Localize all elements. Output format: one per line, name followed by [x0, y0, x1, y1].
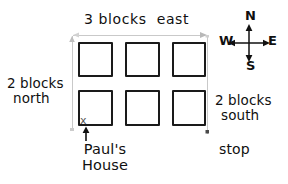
right-dimension-label-line1: 2 blocks — [215, 92, 272, 108]
house-pointer-arrowhead-icon — [83, 127, 90, 134]
pauls-house-label-line1: Paul's — [84, 141, 126, 157]
compass-label-south: S — [246, 58, 255, 73]
stop-label: stop — [219, 142, 250, 157]
compass-label-north: N — [245, 8, 256, 23]
block-r1c1 — [78, 42, 113, 77]
right-dimension-label: 2 blockssouth — [215, 93, 272, 122]
left-dimension-label-line2: north — [7, 91, 64, 106]
block-r1c2 — [125, 42, 160, 77]
compass-label-west: W — [219, 33, 233, 48]
block-r2c3 — [172, 90, 206, 126]
right-dimension-label-line2: south — [215, 108, 272, 123]
left-dimension-label: 2 blocksnorth — [7, 76, 64, 105]
left-dimension-label-line1: 2 blocks — [7, 75, 64, 91]
block-r1c3 — [172, 42, 206, 77]
top-dimension-label: 3 blocks east — [84, 12, 189, 27]
pauls-house-x-marker: x — [80, 114, 87, 127]
pauls-house-label: Paul'sHouse — [66, 142, 144, 173]
compass-label-east: E — [268, 33, 277, 48]
left-dimension-rule — [72, 36, 73, 131]
pauls-house-label-line2: House — [66, 158, 144, 174]
block-r2c2 — [125, 90, 160, 126]
top-dimension-rule — [73, 35, 207, 36]
diagram-canvas: 3 blocks east x 2 blocksnorth 2 blocksso… — [0, 0, 288, 184]
compass-rose: N S W E — [218, 10, 280, 76]
right-dimension-rule — [207, 36, 208, 134]
